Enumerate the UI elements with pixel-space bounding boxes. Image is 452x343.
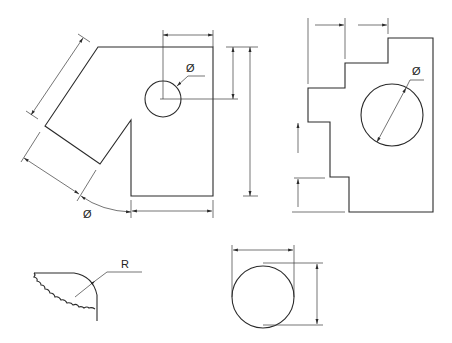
figure-circle-extents [232,245,323,328]
hole [361,84,423,146]
hole-diameter-label: Ø [186,62,195,74]
dimension-line-arm-width [24,158,79,194]
arc-diameter-label: Ø [83,208,92,220]
extension-line [26,111,38,119]
leader-line [177,76,188,86]
extension-line [21,132,40,162]
dimension-line-hole-diameter [377,88,406,142]
part-outline [34,273,97,321]
figure-angled-plate: Ø Ø [21,30,258,220]
radius-line [75,281,95,297]
leader-line [406,80,410,88]
drawing-canvas: Ø Ø Ø [0,0,452,343]
extension-line [77,170,96,201]
dimension-line-arm-length [31,38,83,115]
figure-stepped-plate: Ø [292,18,433,212]
break-line [34,273,95,309]
leader-line [95,272,107,281]
circle [232,266,294,328]
figure-rounded-corner: R [34,258,142,321]
hole-diameter-label: Ø [412,65,421,77]
extension-line [78,34,90,42]
radius-label: R [121,258,129,270]
